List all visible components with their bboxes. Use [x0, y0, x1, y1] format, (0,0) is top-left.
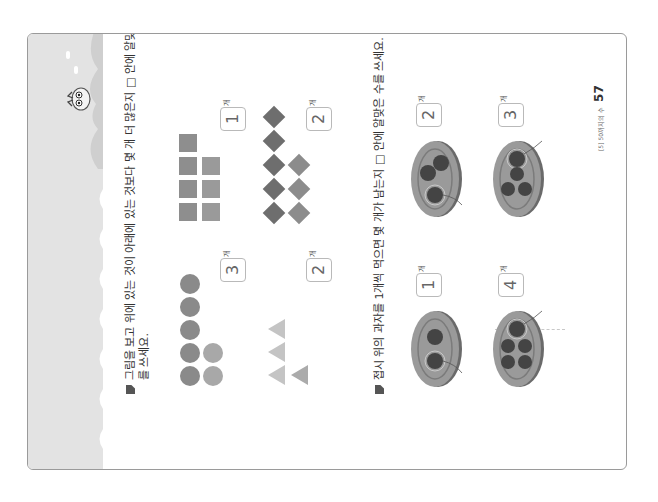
- plate-with-cookies-icon: [490, 139, 546, 219]
- triangle-top: [268, 342, 285, 362]
- square-top: [179, 203, 197, 221]
- worksheet-page: 그림을 보고 위에 있는 것이 아래에 있는 것보다 몇 개 더 많은지 □ 안…: [27, 33, 627, 470]
- diamond-bottom: [288, 178, 311, 201]
- diamond-bottom: [288, 154, 311, 177]
- square-top: [179, 134, 197, 152]
- problem2-plate-3: 4 개: [490, 309, 550, 389]
- square-bottom: [202, 157, 220, 175]
- square-bottom: [202, 180, 220, 198]
- square-top: [179, 180, 197, 198]
- answer-box[interactable]: 3: [498, 103, 524, 127]
- unit-label: 개: [307, 251, 317, 257]
- circle-top: [180, 343, 200, 363]
- circle-top: [180, 366, 200, 386]
- answer-box[interactable]: 4: [498, 273, 524, 297]
- circle-bottom: [203, 366, 223, 386]
- problem2-plate-4: 3 개: [490, 139, 550, 219]
- problem2-plate-1: 1 개: [408, 309, 468, 389]
- cloud-decoration: [74, 66, 78, 74]
- problem1-instruction: 그림을 보고 위에 있는 것이 아래에 있는 것보다 몇 개 더 많은지 □ 안…: [124, 33, 138, 394]
- unit-label: 개: [498, 96, 508, 102]
- problem-bullet-icon: [375, 385, 384, 394]
- cloud-decoration: [66, 51, 70, 59]
- diamond-top: [263, 130, 286, 153]
- answer-box[interactable]: 2: [306, 258, 332, 282]
- diamond-top: [263, 154, 286, 177]
- answer-box[interactable]: 3: [220, 258, 246, 282]
- diamond-top: [263, 202, 286, 225]
- plate-with-cookies-icon: [408, 139, 464, 219]
- circle-top: [180, 320, 200, 340]
- problem-bullet-icon: [126, 385, 135, 394]
- circle-bottom: [203, 343, 223, 363]
- unit-label: 개: [221, 100, 231, 106]
- unit-label: 개: [416, 96, 426, 102]
- diamond-bottom: [288, 202, 311, 225]
- plate-with-cookies-icon: [490, 309, 546, 389]
- answer-box[interactable]: 2: [416, 103, 442, 127]
- chapter-label: [5] 50까지의 수: [597, 107, 604, 151]
- problem1-instruction-line2: 를 쓰세요.: [138, 333, 152, 380]
- answer-box[interactable]: 2: [306, 107, 332, 131]
- triangle-top: [268, 319, 285, 339]
- circle-top: [180, 297, 200, 317]
- unit-label: 개: [416, 266, 426, 272]
- answer-box[interactable]: 1: [220, 107, 246, 131]
- diamond-top: [263, 178, 286, 201]
- page-number: 57: [592, 85, 606, 102]
- circle-top: [180, 274, 200, 294]
- unit-label: 개: [221, 251, 231, 257]
- page-footer: [5] 50까지의 수 57: [588, 85, 607, 151]
- square-top: [179, 157, 197, 175]
- unit-label: 개: [498, 266, 508, 272]
- triangle-top: [268, 365, 285, 385]
- square-bottom: [202, 203, 220, 221]
- answer-box[interactable]: 1: [416, 273, 442, 297]
- decorative-header-band: [28, 33, 103, 469]
- problem2-instruction: 접시 위의 과자를 1개씩 먹으면 몇 개가 남는지 □ 안에 알맞은 수를 쓰…: [373, 37, 387, 394]
- unit-label: 개: [307, 100, 317, 106]
- owl-mascot-icon: [66, 84, 92, 114]
- problem2-plate-2: 2 개: [408, 139, 468, 219]
- triangle-bottom: [291, 365, 308, 385]
- diamond-top: [263, 106, 286, 129]
- plate-with-cookies-icon: [408, 309, 464, 389]
